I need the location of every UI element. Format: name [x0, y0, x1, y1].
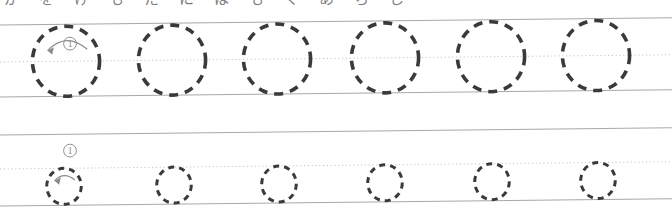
practice-circle: [581, 162, 616, 198]
row-1-large: 1: [0, 18, 672, 97]
practice-grid: 11: [0, 0, 672, 223]
worksheet-page: か･を･け･も･た･に･は･も･く･あ･ら･し 11: [0, 0, 672, 223]
row-2-small: 1: [0, 128, 672, 206]
practice-circle: [157, 167, 192, 203]
guide-line-bottom: [0, 199, 672, 206]
guide-line-top: [0, 18, 672, 25]
practice-circle: [368, 165, 403, 201]
practice-circle: [47, 168, 82, 204]
stroke-order-number: 1: [68, 146, 73, 156]
guide-line-bottom: [0, 90, 672, 97]
practice-circle: [262, 166, 297, 202]
stroke-order-number: 1: [68, 39, 73, 49]
guide-line-top: [0, 128, 672, 135]
guide-line-center: [0, 162, 672, 169]
practice-circle: [475, 163, 510, 199]
